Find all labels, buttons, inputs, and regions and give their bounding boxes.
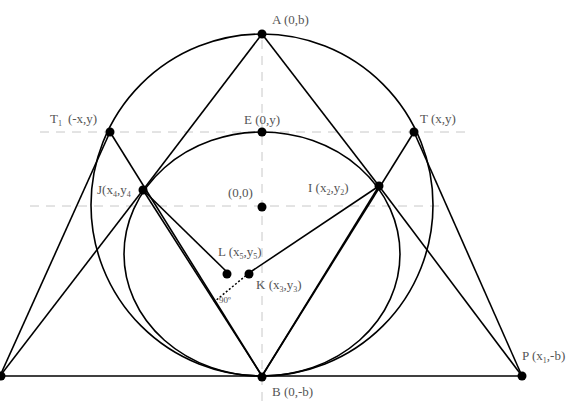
point-P [518, 372, 527, 381]
point-J [139, 186, 148, 195]
point-T1 [106, 128, 115, 137]
label-P: P (x1,-b) [522, 348, 565, 365]
point-origin [258, 203, 267, 212]
point-B [258, 373, 267, 382]
label-K: K (x3,y3) [256, 277, 302, 294]
line-J-L [143, 190, 228, 273]
angle-label: 90º [219, 295, 231, 305]
point-A [258, 30, 267, 39]
label-J: J(x4,y4 [97, 182, 131, 199]
point-K [245, 270, 254, 279]
label-B: B (0,-b) [272, 384, 313, 399]
geometry-diagram: A (0,b) E (0,y) T (x,y) T1(-x,y) (0,0) I… [0, 0, 585, 411]
point-L [223, 270, 232, 279]
label-I: I (x2,y2) [308, 180, 349, 197]
point-T [410, 128, 419, 137]
label-T1: T1(-x,y) [50, 111, 97, 128]
label-E: E (0,y) [244, 112, 280, 127]
line-A-I [262, 34, 379, 186]
label-L: L (x5,y5) [218, 244, 262, 261]
label-origin: (0,0) [228, 185, 253, 200]
point-I [375, 182, 384, 191]
guide-lines [30, 40, 470, 405]
line-T-B [262, 132, 414, 376]
point-left-base [0, 372, 6, 381]
label-T: T (x,y) [420, 111, 456, 126]
label-A: A (0,b) [272, 12, 309, 27]
point-E [258, 128, 267, 137]
line-I-K [249, 186, 379, 273]
